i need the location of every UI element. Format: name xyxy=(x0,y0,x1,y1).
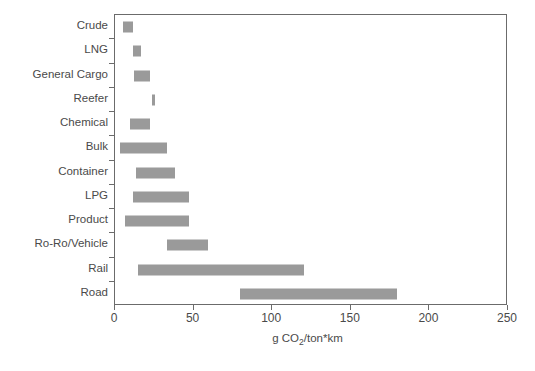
bar-row xyxy=(115,185,506,209)
bar-row xyxy=(115,39,506,63)
y-label-lpg: LPG xyxy=(85,190,108,202)
x-tick xyxy=(428,305,429,310)
bar-bulk xyxy=(120,143,167,154)
y-label-rail: Rail xyxy=(88,263,108,275)
y-label-product: Product xyxy=(68,214,108,226)
y-label-lng: LNG xyxy=(84,45,108,57)
bar-product xyxy=(125,216,189,227)
y-tick xyxy=(109,281,114,282)
y-label-bulk: Bulk xyxy=(86,142,108,154)
y-label-crude: Crude xyxy=(77,20,108,32)
x-tick xyxy=(350,305,351,310)
x-tick-label: 0 xyxy=(111,312,118,325)
bar-container xyxy=(136,167,175,178)
bar-ro-ro-vehicle xyxy=(167,240,208,251)
y-tick xyxy=(109,63,114,64)
bar-lng xyxy=(133,46,141,57)
y-tick xyxy=(109,232,114,233)
bar-lpg xyxy=(133,191,190,202)
bar-reefer xyxy=(152,94,155,105)
bar-rail xyxy=(138,264,305,275)
x-axis-title-pre: g CO xyxy=(272,332,299,344)
bar-general-cargo xyxy=(134,70,150,81)
x-tick-label: 200 xyxy=(418,312,438,325)
y-tick xyxy=(109,160,114,161)
bar-row xyxy=(115,282,506,306)
plot-area xyxy=(114,14,507,305)
x-axis-title-post: /ton*km xyxy=(304,332,343,344)
x-tick xyxy=(193,305,194,310)
x-tick-label: 150 xyxy=(340,312,360,325)
y-tick xyxy=(109,38,114,39)
x-tick xyxy=(271,305,272,310)
bar-chemical xyxy=(130,119,150,130)
y-axis-category-labels: CrudeLNGGeneral CargoReeferChemicalBulkC… xyxy=(0,14,108,305)
x-axis-title: g CO2/ton*km xyxy=(0,332,535,347)
bar-row xyxy=(115,209,506,233)
bar-row xyxy=(115,112,506,136)
x-tick-label: 100 xyxy=(261,312,281,325)
y-tick xyxy=(109,208,114,209)
bar-crude xyxy=(123,22,132,33)
bar-row xyxy=(115,136,506,160)
y-label-ro-ro-vehicle: Ro-Ro/Vehicle xyxy=(34,239,108,251)
y-tick xyxy=(109,184,114,185)
y-label-road: Road xyxy=(81,287,109,299)
bar-row xyxy=(115,161,506,185)
y-label-reefer: Reefer xyxy=(73,93,108,105)
y-label-general-cargo: General Cargo xyxy=(33,69,108,81)
y-tick xyxy=(109,87,114,88)
x-tick xyxy=(507,305,508,310)
x-tick xyxy=(114,305,115,310)
x-tick-label: 50 xyxy=(186,312,199,325)
y-label-chemical: Chemical xyxy=(60,117,108,129)
y-tick xyxy=(109,111,114,112)
bar-row xyxy=(115,233,506,257)
y-label-container: Container xyxy=(58,166,108,178)
bar-row xyxy=(115,64,506,88)
bar-row xyxy=(115,258,506,282)
bar-row xyxy=(115,88,506,112)
chart-figure: CrudeLNGGeneral CargoReeferChemicalBulkC… xyxy=(0,0,535,371)
x-tick-label: 250 xyxy=(497,312,517,325)
bar-road xyxy=(240,288,397,299)
y-tick xyxy=(109,135,114,136)
y-tick xyxy=(109,257,114,258)
bar-row xyxy=(115,15,506,39)
